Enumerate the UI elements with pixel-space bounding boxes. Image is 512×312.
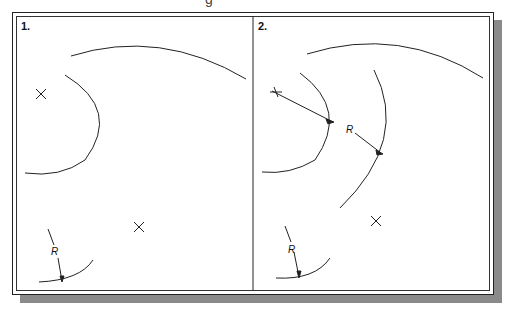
radius-arc	[39, 260, 93, 282]
panel-1-label: 1.	[21, 20, 30, 32]
radius-arc	[276, 258, 330, 278]
center-mark-icon	[134, 222, 144, 232]
panel-2-radius-label: R	[346, 124, 353, 135]
dimension-line	[272, 91, 381, 153]
large-arc	[71, 46, 246, 79]
drawing-canvas	[0, 0, 512, 312]
arrowhead-icon	[326, 119, 383, 155]
panel-1-radius-label: R	[51, 246, 58, 257]
center-mark-icon	[371, 216, 381, 226]
large-arc	[307, 44, 483, 78]
center-mark-icon	[36, 89, 46, 99]
panel-2-geometry	[262, 44, 483, 278]
panel-2-small-radius-label: R	[288, 244, 295, 255]
arrowhead-icon	[60, 276, 64, 282]
panel-2-label: 2.	[258, 20, 267, 32]
left-arc	[262, 73, 329, 173]
